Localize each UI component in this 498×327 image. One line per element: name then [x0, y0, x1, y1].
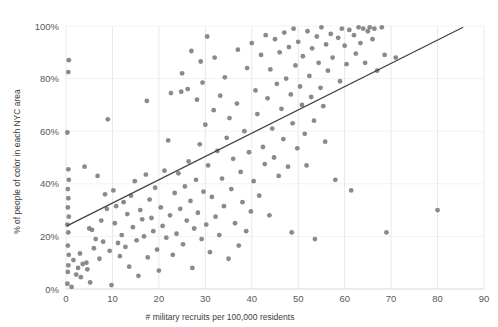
- data-point: [344, 62, 349, 67]
- data-point: [302, 131, 307, 136]
- data-point: [211, 108, 216, 113]
- data-point: [178, 206, 183, 211]
- data-point: [289, 230, 294, 235]
- data-point: [363, 60, 368, 65]
- data-point: [217, 233, 222, 238]
- data-point: [208, 250, 213, 255]
- data-point: [65, 130, 70, 135]
- data-point: [66, 167, 71, 172]
- data-point: [169, 91, 174, 96]
- data-point: [69, 284, 74, 289]
- data-point: [257, 193, 262, 198]
- data-point: [287, 45, 292, 50]
- data-point: [174, 231, 179, 236]
- data-point: [309, 95, 314, 100]
- data-point: [142, 234, 147, 239]
- data-point: [212, 55, 217, 60]
- data-point: [305, 29, 310, 34]
- data-point: [213, 214, 218, 219]
- data-point: [236, 243, 241, 248]
- data-point: [184, 218, 189, 223]
- data-point: [140, 217, 145, 222]
- data-point: [111, 188, 116, 193]
- data-point: [204, 222, 209, 227]
- data-point: [253, 88, 258, 93]
- data-point: [85, 267, 90, 272]
- data-point: [227, 116, 232, 121]
- data-point: [276, 174, 281, 179]
- data-point: [97, 256, 102, 261]
- data-point: [158, 205, 163, 210]
- data-point: [313, 237, 318, 242]
- data-point: [65, 281, 70, 286]
- data-point: [248, 209, 253, 214]
- data-point: [170, 252, 175, 257]
- data-point: [222, 204, 227, 209]
- x-axis-tick-label: 50: [293, 293, 304, 304]
- x-axis-tick-label: 40: [246, 293, 257, 304]
- data-point: [330, 55, 335, 60]
- data-point: [298, 84, 303, 89]
- data-point: [328, 31, 333, 36]
- data-point: [286, 164, 291, 169]
- data-point: [203, 122, 208, 127]
- data-point: [132, 179, 137, 184]
- data-point: [125, 212, 130, 217]
- data-point: [66, 214, 71, 219]
- data-point: [229, 187, 234, 192]
- data-point: [206, 163, 211, 168]
- data-point: [296, 39, 301, 44]
- data-point: [226, 256, 231, 261]
- data-point: [295, 146, 300, 151]
- data-point: [101, 239, 106, 244]
- data-point: [281, 137, 286, 142]
- data-point: [84, 260, 89, 265]
- data-point: [321, 104, 326, 109]
- data-point: [162, 168, 167, 173]
- data-point: [249, 41, 254, 46]
- data-point: [99, 218, 104, 223]
- data-point: [186, 159, 191, 164]
- data-point: [200, 80, 205, 85]
- data-point: [78, 251, 83, 256]
- x-axis-tick-label: 80: [432, 293, 443, 304]
- y-axis-tick-label: 40%: [40, 178, 60, 189]
- data-point: [76, 266, 81, 271]
- data-point: [291, 26, 296, 31]
- data-point: [176, 171, 181, 176]
- data-point: [316, 60, 321, 65]
- data-point: [282, 30, 287, 35]
- data-point: [181, 242, 186, 247]
- data-point: [66, 70, 71, 75]
- data-point: [290, 121, 295, 126]
- x-axis-tick-label: 60: [339, 293, 350, 304]
- trendline: [67, 27, 463, 226]
- data-point: [180, 71, 185, 76]
- data-point: [153, 185, 158, 190]
- data-point: [164, 235, 169, 240]
- data-point: [347, 28, 352, 33]
- data-point: [194, 177, 199, 182]
- data-point: [147, 197, 152, 202]
- data-point: [279, 106, 284, 111]
- data-point: [90, 227, 95, 232]
- axis-labels-layer: 01020304050607080900%20%40%60%80%100%# m…: [12, 21, 489, 323]
- data-point: [74, 272, 79, 277]
- data-point: [119, 233, 124, 238]
- data-point: [333, 177, 338, 182]
- data-point: [91, 246, 96, 251]
- data-point: [274, 81, 279, 86]
- data-point: [65, 243, 70, 248]
- data-point: [172, 191, 177, 196]
- data-point: [117, 254, 122, 259]
- data-point: [265, 96, 270, 101]
- data-point: [66, 263, 71, 268]
- scatter-chart: 01020304050607080900%20%40%60%80%100%# m…: [0, 0, 498, 327]
- x-axis-title: # military recruits per 100,000 resident…: [146, 312, 295, 322]
- data-point: [65, 270, 70, 275]
- data-point: [310, 46, 315, 51]
- data-point: [324, 42, 329, 47]
- data-point: [268, 67, 273, 72]
- data-point: [130, 225, 135, 230]
- data-point: [251, 179, 256, 184]
